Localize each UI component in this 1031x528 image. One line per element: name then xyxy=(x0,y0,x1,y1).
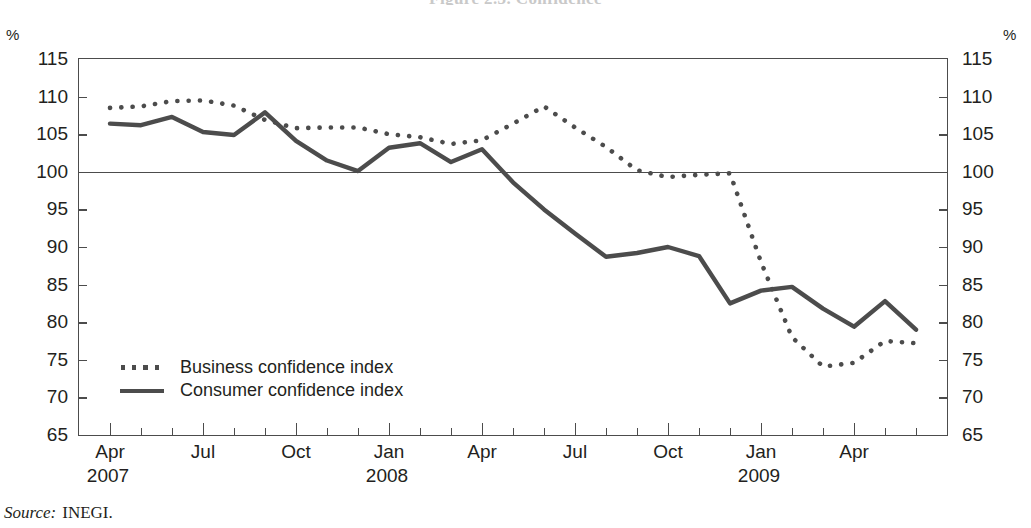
x-tick-mark-25 xyxy=(885,428,886,435)
x-tick-label-oct-6: Oct xyxy=(281,441,311,462)
x-tick-mark-0 xyxy=(110,423,111,435)
x-tick-mark-9 xyxy=(389,423,390,435)
source-value: INEGI. xyxy=(62,503,113,522)
legend-label-consumer: Consumer confidence index xyxy=(180,380,403,401)
y-tick-label-left-110: 110 xyxy=(6,87,68,106)
source-note: Source:INEGI. xyxy=(4,503,113,523)
y-tick-label-left-100: 100 xyxy=(6,162,68,181)
y-tick-label-left-65: 65 xyxy=(6,425,68,444)
y-axis-unit-right: % xyxy=(1003,26,1016,43)
y-tick-label-right-80: 80 xyxy=(962,312,1024,331)
legend-item-consumer: Consumer confidence index xyxy=(118,379,403,402)
x-tick-mark-4 xyxy=(234,428,235,435)
x-tick-label-apr-24: Apr xyxy=(839,441,869,462)
x-tick-mark-8 xyxy=(358,428,359,435)
x-tick-mark-11 xyxy=(451,428,452,435)
y-tick-label-left-115: 115 xyxy=(6,49,68,68)
y-tick-label-left-70: 70 xyxy=(6,387,68,406)
y-tick-label-left-80: 80 xyxy=(6,312,68,331)
y-tick-mark-r-90 xyxy=(939,247,947,248)
y-tick-mark-l-95 xyxy=(79,209,87,210)
x-tick-label-oct-18: Oct xyxy=(653,441,683,462)
y-tick-mark-l-90 xyxy=(79,247,87,248)
x-tick-label-apr-12: Apr xyxy=(467,441,497,462)
x-tick-mark-17 xyxy=(637,428,638,435)
x-tick-label-jul-3: Jul xyxy=(191,441,215,462)
x-tick-mark-3 xyxy=(203,423,204,435)
x-tick-label-jan-21: Jan xyxy=(746,441,777,462)
y-tick-mark-l-75 xyxy=(79,360,87,361)
x-tick-label-apr-0: Apr xyxy=(95,441,125,462)
y-tick-mark-r-70 xyxy=(939,397,947,398)
x-tick-label-jul-15: Jul xyxy=(563,441,587,462)
x-tick-mark-19 xyxy=(699,428,700,435)
y-tick-mark-l-110 xyxy=(79,97,87,98)
x-tick-mark-13 xyxy=(513,428,514,435)
y-tick-label-left-90: 90 xyxy=(6,237,68,256)
y-tick-mark-r-75 xyxy=(939,360,947,361)
legend-item-business: Business confidence index xyxy=(118,356,403,379)
x-tick-mark-12 xyxy=(482,423,483,435)
x-axis-year-2007: 2007 xyxy=(87,465,129,486)
y-axis-unit-left: % xyxy=(6,26,19,43)
x-tick-mark-21 xyxy=(761,423,762,435)
y-tick-label-left-105: 105 xyxy=(6,124,68,143)
y-tick-label-right-65: 65 xyxy=(962,425,1024,444)
solid-line-swatch-icon xyxy=(118,385,166,397)
x-tick-mark-6 xyxy=(296,423,297,435)
x-tick-mark-22 xyxy=(792,428,793,435)
x-tick-mark-18 xyxy=(668,423,669,435)
y-tick-label-left-85: 85 xyxy=(6,275,68,294)
x-tick-mark-20 xyxy=(730,428,731,435)
x-tick-mark-24 xyxy=(854,423,855,435)
x-tick-label-jan-9: Jan xyxy=(374,441,405,462)
y-tick-label-right-105: 105 xyxy=(962,124,1024,143)
source-label: Source: xyxy=(4,503,56,522)
y-tick-mark-l-70 xyxy=(79,397,87,398)
y-tick-mark-r-105 xyxy=(939,134,947,135)
y-tick-label-left-95: 95 xyxy=(6,199,68,218)
x-tick-mark-7 xyxy=(327,428,328,435)
y-tick-mark-r-85 xyxy=(939,285,947,286)
y-tick-mark-l-85 xyxy=(79,285,87,286)
y-tick-label-right-85: 85 xyxy=(962,275,1024,294)
y-tick-label-left-75: 75 xyxy=(6,350,68,369)
y-tick-label-right-70: 70 xyxy=(962,387,1024,406)
x-tick-mark-2 xyxy=(172,428,173,435)
y-tick-mark-r-110 xyxy=(939,97,947,98)
series-line-business xyxy=(110,100,916,366)
x-tick-mark-5 xyxy=(265,428,266,435)
y-tick-label-right-75: 75 xyxy=(962,350,1024,369)
y-tick-mark-r-95 xyxy=(939,209,947,210)
x-tick-mark-10 xyxy=(420,428,421,435)
x-tick-mark-1 xyxy=(141,428,142,435)
x-tick-mark-14 xyxy=(544,428,545,435)
series-line-consumer xyxy=(110,112,916,329)
y-tick-label-right-115: 115 xyxy=(962,49,1024,68)
y-tick-mark-l-80 xyxy=(79,322,87,323)
dotted-line-swatch-icon xyxy=(118,362,166,374)
legend-label-business: Business confidence index xyxy=(180,357,393,378)
figure-title: Figure 2.3. Confidence xyxy=(0,0,1031,5)
y-tick-label-right-95: 95 xyxy=(962,199,1024,218)
y-tick-mark-r-80 xyxy=(939,322,947,323)
y-tick-label-right-90: 90 xyxy=(962,237,1024,256)
x-axis-year-2009: 2009 xyxy=(738,465,780,486)
x-tick-mark-23 xyxy=(823,428,824,435)
x-tick-mark-26 xyxy=(916,428,917,435)
x-tick-mark-15 xyxy=(575,423,576,435)
chart-figure: Figure 2.3. Confidence % % 6570758085909… xyxy=(0,0,1031,528)
y-tick-label-right-100: 100 xyxy=(962,162,1024,181)
chart-legend: Business confidence index Consumer confi… xyxy=(118,356,403,402)
y-tick-label-right-110: 110 xyxy=(962,87,1024,106)
y-tick-mark-l-105 xyxy=(79,134,87,135)
x-axis-year-2008: 2008 xyxy=(366,465,408,486)
x-tick-mark-16 xyxy=(606,428,607,435)
